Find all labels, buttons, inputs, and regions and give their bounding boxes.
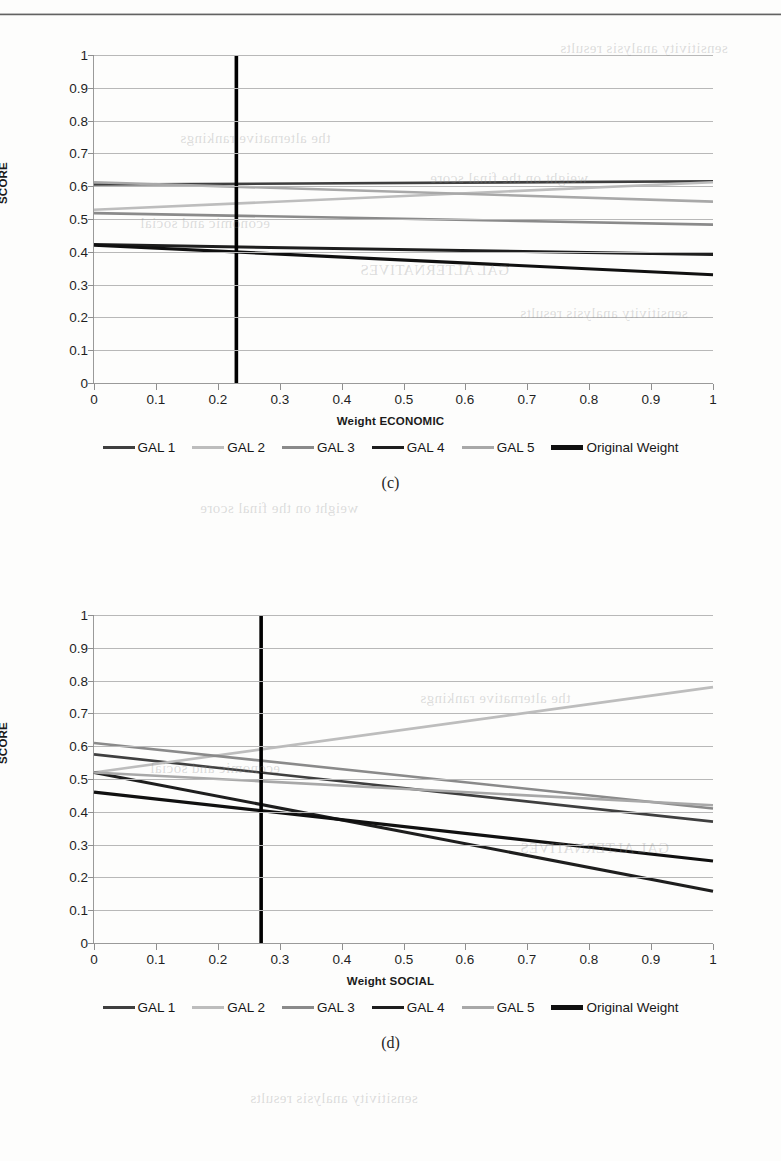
x-tick-mark bbox=[465, 384, 466, 390]
legend-item[interactable]: GAL 2 bbox=[192, 1000, 265, 1015]
plot-area-d bbox=[94, 615, 713, 943]
legend-swatch-icon bbox=[551, 445, 583, 449]
y-tick-label: 1 bbox=[48, 48, 88, 63]
y-tick-label: 0.9 bbox=[48, 81, 88, 96]
y-tick-mark bbox=[88, 681, 94, 682]
legend-label: GAL 4 bbox=[407, 440, 445, 455]
legend-label: GAL 2 bbox=[227, 440, 265, 455]
legend-label: GAL 3 bbox=[317, 1000, 355, 1015]
legend-swatch-icon bbox=[372, 446, 404, 449]
y-tick-label: 0.8 bbox=[48, 674, 88, 689]
x-tick-mark bbox=[342, 944, 343, 950]
figure-caption-c: (c) bbox=[0, 474, 781, 492]
legend-item[interactable]: GAL 5 bbox=[462, 440, 535, 455]
legend-label: Original Weight bbox=[586, 1000, 678, 1015]
y-tick-mark bbox=[88, 845, 94, 846]
chart-d: SCORE 00.10.20.30.40.50.60.70.80.91 Weig… bbox=[0, 586, 781, 986]
legend-item[interactable]: Original Weight bbox=[551, 440, 678, 455]
legend-label: GAL 1 bbox=[138, 1000, 176, 1015]
legend-swatch-icon bbox=[372, 1006, 404, 1009]
legend-swatch-icon bbox=[282, 1006, 314, 1009]
x-tick-mark bbox=[218, 384, 219, 390]
legend-item[interactable]: GAL 3 bbox=[282, 440, 355, 455]
y-tick-label: 0.5 bbox=[48, 212, 88, 227]
x-tick-mark bbox=[651, 384, 652, 390]
legend-item[interactable]: GAL 4 bbox=[372, 440, 445, 455]
y-tick-mark bbox=[88, 219, 94, 220]
gridline-y bbox=[94, 186, 713, 187]
x-tick-mark bbox=[280, 944, 281, 950]
x-tick-label: 0.1 bbox=[134, 392, 178, 407]
legend-label: GAL 3 bbox=[317, 440, 355, 455]
x-tick-label: 0.8 bbox=[567, 952, 611, 967]
x-axis-title-d: Weight SOCIAL bbox=[0, 975, 781, 987]
x-tick-label: 0.9 bbox=[629, 392, 673, 407]
legend-swatch-icon bbox=[192, 1006, 224, 1009]
gridline-y bbox=[94, 55, 713, 56]
y-axis-title-d: SCORE bbox=[0, 722, 9, 764]
gridline-y bbox=[94, 910, 713, 911]
legend-label: GAL 5 bbox=[497, 440, 535, 455]
legend-item[interactable]: GAL 1 bbox=[103, 1000, 176, 1015]
x-tick-mark bbox=[280, 384, 281, 390]
y-tick-mark bbox=[88, 88, 94, 89]
legend-item[interactable]: GAL 3 bbox=[282, 1000, 355, 1015]
legend-item[interactable]: GAL 4 bbox=[372, 1000, 445, 1015]
legend-swatch-icon bbox=[103, 1006, 135, 1009]
y-tick-mark bbox=[88, 252, 94, 253]
y-axis-title-c: SCORE bbox=[0, 162, 9, 204]
y-tick-mark bbox=[88, 285, 94, 286]
y-tick-mark bbox=[88, 779, 94, 780]
legend-label: Original Weight bbox=[586, 440, 678, 455]
x-tick-label: 0 bbox=[72, 952, 116, 967]
x-tick-label: 1 bbox=[691, 392, 735, 407]
gridline-y bbox=[94, 877, 713, 878]
scan-bleed-text: sensitivity analysis results bbox=[250, 1090, 418, 1107]
x-tick-label: 0.3 bbox=[258, 952, 302, 967]
legend-item[interactable]: Original Weight bbox=[551, 1000, 678, 1015]
x-axis-title-c: Weight ECONOMIC bbox=[0, 415, 781, 427]
legend-swatch-icon bbox=[462, 446, 494, 449]
y-tick-label: 0.7 bbox=[48, 706, 88, 721]
y-tick-label: 0.1 bbox=[48, 343, 88, 358]
figure-caption-d: (d) bbox=[0, 1034, 781, 1052]
figure-c: SCORE 00.10.20.30.40.50.60.70.80.91 Weig… bbox=[0, 26, 781, 426]
x-tick-label: 0.2 bbox=[196, 952, 240, 967]
legend-swatch-icon bbox=[103, 446, 135, 449]
x-tick-mark bbox=[589, 944, 590, 950]
y-tick-label: 0.5 bbox=[48, 772, 88, 787]
x-tick-label: 0.4 bbox=[320, 952, 364, 967]
legend-swatch-icon bbox=[462, 1006, 494, 1009]
y-tick-mark bbox=[88, 186, 94, 187]
y-tick-label: 0 bbox=[48, 936, 88, 951]
y-tick-label: 0.7 bbox=[48, 146, 88, 161]
gridline-y bbox=[94, 219, 713, 220]
y-tick-label: 0.6 bbox=[48, 739, 88, 754]
x-tick-mark bbox=[218, 944, 219, 950]
x-tick-mark bbox=[713, 944, 714, 950]
legend-item[interactable]: GAL 1 bbox=[103, 440, 176, 455]
x-tick-label: 0.7 bbox=[505, 392, 549, 407]
x-tick-mark bbox=[589, 384, 590, 390]
x-tick-mark bbox=[651, 944, 652, 950]
legend-c: GAL 1GAL 2GAL 3GAL 4GAL 5Original Weight bbox=[0, 440, 781, 455]
x-tick-label: 0.6 bbox=[443, 952, 487, 967]
legend-item[interactable]: GAL 5 bbox=[462, 1000, 535, 1015]
gridline-y bbox=[94, 615, 713, 616]
y-tick-label: 0.9 bbox=[48, 641, 88, 656]
y-tick-label: 0.4 bbox=[48, 245, 88, 260]
x-tick-label: 0.5 bbox=[382, 392, 426, 407]
y-tick-mark bbox=[88, 910, 94, 911]
x-tick-label: 0.1 bbox=[134, 952, 178, 967]
x-tick-label: 1 bbox=[691, 952, 735, 967]
y-tick-label: 0.3 bbox=[48, 838, 88, 853]
x-tick-label: 0.3 bbox=[258, 392, 302, 407]
y-tick-mark bbox=[88, 877, 94, 878]
y-tick-mark bbox=[88, 713, 94, 714]
legend-item[interactable]: GAL 2 bbox=[192, 440, 265, 455]
chart-c: SCORE 00.10.20.30.40.50.60.70.80.91 Weig… bbox=[0, 26, 781, 426]
x-tick-mark bbox=[527, 944, 528, 950]
series-line bbox=[94, 743, 713, 809]
y-tick-mark bbox=[88, 648, 94, 649]
gridline-y bbox=[94, 812, 713, 813]
